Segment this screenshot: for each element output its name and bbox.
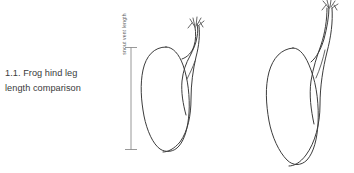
left-frog-toes [188,17,204,28]
left-frog-toe-web-left [188,23,192,28]
right-frog-toe-3 [330,0,331,7]
right-frog [266,0,338,166]
left-frog [141,17,204,152]
snout-vent-length-bar [125,47,137,150]
figure-root: 1.1. Frog hind leg length comparison sno… [0,0,354,173]
right-frog-toes [322,0,338,10]
frog-illustrations [0,0,354,173]
left-frog-leg-outer [182,27,196,59]
right-frog-toe-web-left [322,5,326,10]
left-frog-body-outline [141,47,189,151]
